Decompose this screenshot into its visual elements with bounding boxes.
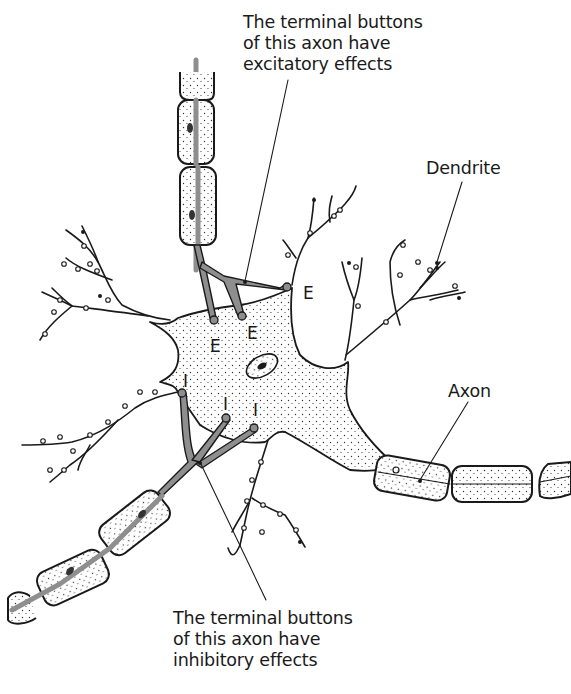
dendrite-label: Dendrite (426, 158, 501, 179)
excitatory-axon (178, 60, 291, 324)
excitatory-mark-soma-center: E (247, 324, 258, 342)
excitatory-mark-soma-left: E (210, 337, 221, 355)
bottom-dendrites (228, 440, 305, 555)
excitatory-mark-top-right: E (303, 284, 314, 302)
dendrite-pointer-line (437, 182, 462, 262)
right-dendrites (283, 186, 465, 360)
axon-label: Axon (448, 381, 491, 402)
inhibitory-mark-left: I (183, 372, 188, 390)
inhibitory-axon (8, 389, 258, 624)
neuron-diagram (0, 0, 571, 694)
inhibitory-mark-middle: I (223, 395, 228, 413)
excitatory-caption: The terminal buttons of this axon have e… (243, 12, 423, 75)
inhibitory-mark-right: I (253, 401, 258, 419)
output-axon (372, 454, 571, 502)
inhibitory-caption: The terminal buttons of this axon have i… (173, 608, 353, 671)
inhibitory-pointer-line (200, 462, 266, 600)
excitatory-pointer-line (245, 80, 288, 281)
lower-left-dendrite (22, 390, 178, 482)
